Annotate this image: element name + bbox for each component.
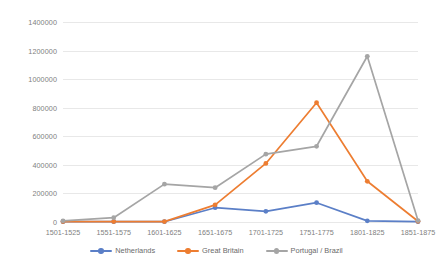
legend-item-label: Netherlands xyxy=(115,246,155,255)
y-axis-tick-label: 1200000 xyxy=(0,47,57,56)
data-point xyxy=(61,218,66,223)
data-point xyxy=(314,200,319,205)
legend-marker-icon xyxy=(266,247,288,255)
y-axis-tick-label: 0 xyxy=(0,218,57,227)
series-line xyxy=(63,56,418,221)
legend-item-label: Portugal / Brazil xyxy=(291,246,343,255)
chart-legend: NetherlandsGreat BritainPortugal / Brazi… xyxy=(0,246,433,255)
data-point xyxy=(365,54,370,59)
data-point xyxy=(263,161,268,166)
y-axis-tick-label: 400000 xyxy=(0,161,57,170)
data-point xyxy=(263,152,268,157)
legend-item[interactable]: Great Britain xyxy=(177,246,244,255)
y-axis-tick-label: 600000 xyxy=(0,132,57,141)
series-layer xyxy=(63,22,418,222)
y-axis-tick-label: 800000 xyxy=(0,104,57,113)
series-line xyxy=(63,103,418,222)
y-axis-tick-label: 200000 xyxy=(0,189,57,198)
data-point xyxy=(162,219,167,224)
x-axis-tick-label: 1851-1875 xyxy=(388,228,440,237)
data-point xyxy=(314,144,319,149)
series-great-britain xyxy=(61,100,421,224)
data-point xyxy=(213,202,218,207)
legend-marker-icon xyxy=(90,247,112,255)
data-point xyxy=(111,215,116,220)
data-point xyxy=(365,179,370,184)
data-point xyxy=(314,100,319,105)
legend-marker-icon xyxy=(177,247,199,255)
series-portugal-brazil xyxy=(61,54,421,223)
data-point xyxy=(213,185,218,190)
data-point xyxy=(162,182,167,187)
y-axis-tick-label: 1000000 xyxy=(0,75,57,84)
legend-item-label: Great Britain xyxy=(202,246,244,255)
data-point xyxy=(416,218,421,223)
y-axis-tick-label: 1400000 xyxy=(0,18,57,27)
series-line xyxy=(63,203,418,222)
data-point xyxy=(365,218,370,223)
plot-area xyxy=(63,22,418,222)
legend-item[interactable]: Netherlands xyxy=(90,246,155,255)
data-point xyxy=(263,209,268,214)
legend-item[interactable]: Portugal / Brazil xyxy=(266,246,343,255)
